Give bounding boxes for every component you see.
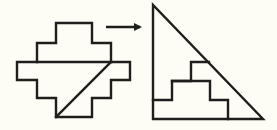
dissection-diagram — [0, 0, 277, 130]
right-triangle — [153, 5, 263, 119]
stepped-figure — [17, 23, 130, 117]
inner-step-down-line — [172, 81, 228, 119]
stepped-figure-outline — [17, 23, 130, 117]
diagonal-cut-line — [56, 62, 111, 117]
